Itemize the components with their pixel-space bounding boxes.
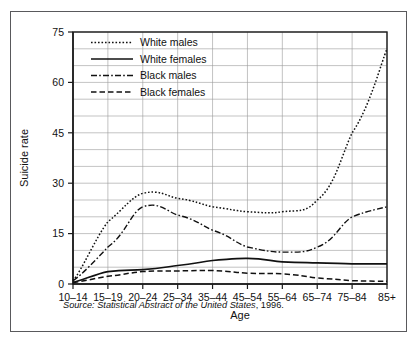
x-tick-label: 85+ [378,291,396,303]
y-tick-label: 45 [52,127,64,139]
source-note: Source: Statistical Abstract of the Unit… [63,300,284,310]
legend-label: White males [140,36,198,48]
x-tick-label: 65–74 [303,291,332,303]
figure-frame: 01530456075 10–1415–1920–2425–3435–4445–… [10,11,407,332]
series-line [73,49,387,281]
vertical-gridlines [73,32,387,284]
y-tick-label: 30 [52,177,64,189]
series-line [73,270,387,282]
series-line [73,258,387,282]
source-note-year: , 1996. [256,300,284,310]
y-tick-label: 15 [52,227,64,239]
minor-gridlines [73,32,387,284]
legend-label: White females [140,53,207,65]
y-axis-title: Suicide rate [18,129,30,187]
y-tick-label: 0 [58,278,64,290]
chart-legend: White malesWhite femalesBlack malesBlack… [91,36,207,98]
chart-area: 01530456075 10–1415–1920–2425–3435–4445–… [11,12,408,333]
y-tick-label: 75 [52,26,64,38]
source-note-italic: Source: Statistical Abstract of the Unit… [63,300,256,310]
y-tick-label: 60 [52,76,64,88]
x-tick-label: 75–84 [338,291,367,303]
legend-label: Black females [140,86,205,98]
plot-frame [73,32,387,284]
plot-border [73,32,387,284]
y-axis-tick-labels: 01530456075 [52,26,64,290]
data-series-group [73,49,387,283]
suicide-rate-line-chart: 01530456075 10–1415–1920–2425–3435–4445–… [11,12,408,333]
x-axis-title: Age [230,309,250,321]
series-line [73,205,387,280]
legend-label: Black males [140,69,197,81]
